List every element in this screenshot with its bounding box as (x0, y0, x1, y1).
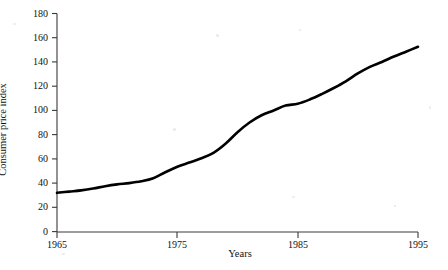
x-axis-ticks (57, 232, 418, 238)
axes-group (52, 14, 418, 239)
y-tick-label-80: 80 (22, 130, 48, 140)
y-tick-label-140: 140 (22, 57, 48, 67)
x-tick-label-1995: 1995 (408, 240, 428, 250)
y-tick-label-60: 60 (22, 154, 48, 164)
y-tick-label-20: 20 (22, 202, 48, 212)
y-tick-label-40: 40 (22, 178, 48, 188)
y-axis-title: Consumer price index (0, 83, 8, 176)
y-tick-label-160: 160 (22, 33, 48, 43)
plot-area (0, 0, 448, 270)
cpi-curve (57, 47, 418, 193)
x-tick-label-1985: 1985 (288, 240, 308, 250)
y-tick-label-180: 180 (22, 9, 48, 19)
cpi-line-chart: 180 160 140 120 100 80 60 40 20 0 1965 1… (0, 0, 448, 270)
x-tick-label-1965: 1965 (47, 240, 67, 250)
x-axis-title: Years (228, 248, 251, 259)
y-axis-ticks (52, 14, 57, 232)
x-tick-label-1975: 1975 (167, 240, 187, 250)
y-tick-label-100: 100 (22, 105, 48, 115)
y-tick-label-0: 0 (22, 227, 48, 237)
y-tick-label-120: 120 (22, 81, 48, 91)
